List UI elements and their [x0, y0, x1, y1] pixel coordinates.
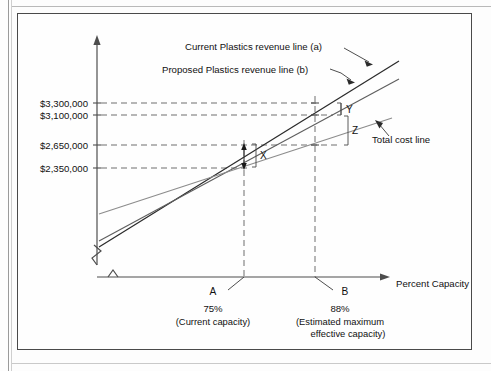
data-series-group: [99, 61, 399, 247]
x-reference-lines: [244, 96, 315, 277]
x-point-B-value: 88%: [330, 303, 350, 314]
segment-y-group: Y: [337, 103, 353, 115]
callout-proposed-revenue: Proposed Plastics revenue line (b): [162, 64, 355, 85]
series-current-plastics-revenue-line: [99, 61, 399, 247]
segment-y-bracket: [337, 103, 341, 115]
callout-total-cost: Total cost line: [372, 120, 430, 145]
y-axis-group: [92, 35, 101, 265]
segment-x-arrow-down-icon: [241, 163, 247, 170]
segment-x-arrow-up-icon: [241, 143, 247, 150]
x-axis-arrow-icon: [380, 273, 390, 280]
y-reference-lines: [93, 103, 340, 168]
leader-line-current-revenue: [344, 48, 369, 62]
label-total-cost-line: Total cost line: [372, 134, 430, 145]
y-tick-labels: $3,300,000 $3,100,000 $2,650,000 $2,350,…: [40, 98, 88, 174]
figure-page: X Y Z $3,300,000 $3,100,000 $2,650,000 $…: [0, 0, 491, 371]
x-point-A-leader: [228, 277, 244, 290]
segment-x-label: X: [260, 150, 267, 161]
label-current-plastics-revenue-line: Current Plastics revenue line (a): [185, 41, 322, 52]
x-point-A-group: A 75% (Current capacity): [176, 277, 251, 327]
x-point-B-note-line2: effective capacity): [311, 328, 386, 339]
breakeven-chart: X Y Z $3,300,000 $3,100,000 $2,650,000 $…: [0, 0, 491, 371]
segment-z-group: Z: [344, 116, 358, 145]
y-tick-label-3100000: $3,100,000: [40, 110, 88, 121]
x-point-B-note-line1: (Estimated maximum: [296, 316, 384, 327]
label-proposed-plastics-revenue-line: Proposed Plastics revenue line (b): [162, 64, 308, 75]
x-axis-label: Percent Capacity: [396, 278, 469, 289]
x-point-A-value: 75%: [203, 303, 223, 314]
callout-current-revenue: Current Plastics revenue line (a): [185, 41, 373, 67]
y-tick-label-3300000: $3,300,000: [40, 98, 88, 109]
y-tick-label-2650000: $2,650,000: [40, 140, 88, 151]
segment-z-bracket: [344, 116, 348, 145]
y-axis-arrow-icon: [93, 35, 100, 45]
segment-z-label: Z: [352, 125, 358, 136]
x-point-A-marker: A: [210, 286, 217, 297]
x-point-A-note-line1: (Current capacity): [176, 316, 251, 327]
x-point-B-leader: [315, 277, 333, 290]
x-point-B-marker: B: [342, 286, 349, 297]
leader-line-proposed-revenue: [330, 69, 351, 80]
segment-y-label: Y: [346, 104, 353, 115]
y-tick-label-2350000: $2,350,000: [40, 163, 88, 174]
x-axis-break-icon: [108, 270, 118, 277]
x-point-B-group: B 88% (Estimated maximum effective capac…: [296, 277, 385, 339]
